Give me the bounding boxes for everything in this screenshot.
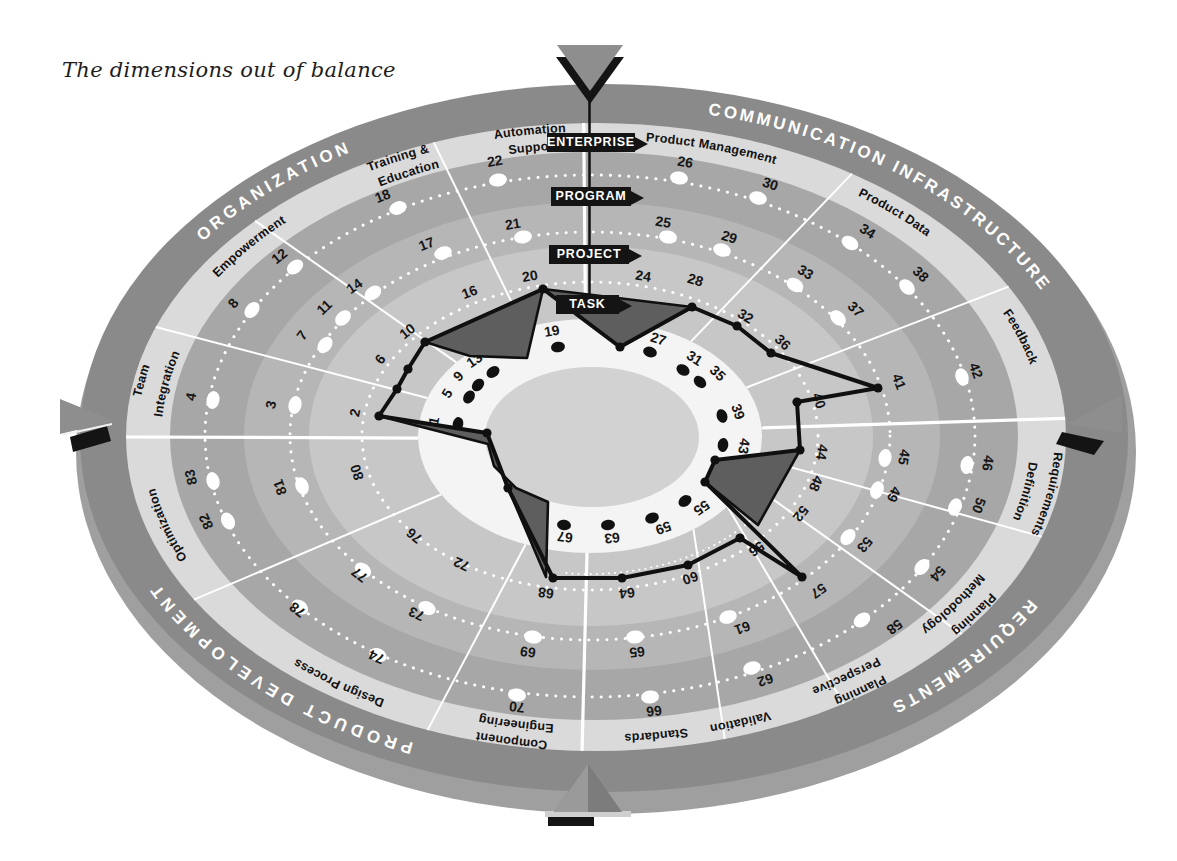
cell-number-66: 66 bbox=[645, 703, 662, 721]
sector-divider bbox=[126, 437, 418, 438]
cell-number-19: 19 bbox=[543, 322, 561, 340]
profile-vertex-dot bbox=[732, 321, 741, 330]
cell-number-26: 26 bbox=[676, 153, 694, 171]
cell-number-24: 24 bbox=[634, 267, 652, 285]
level-banner-label-project: PROJECT bbox=[557, 247, 622, 261]
profile-vertex-dot bbox=[615, 342, 624, 351]
cell-number-64: 64 bbox=[618, 584, 635, 602]
profile-vertex-dot bbox=[710, 455, 719, 464]
profile-vertex-dot bbox=[735, 533, 744, 542]
sector-divider bbox=[584, 123, 586, 319]
cell-number-22: 22 bbox=[486, 152, 504, 170]
profile-vertex-dot bbox=[548, 573, 557, 582]
page: The dimensions out of balance 1234567891… bbox=[0, 0, 1177, 861]
cell-number-44: 44 bbox=[813, 443, 831, 461]
cell-number-67: 67 bbox=[556, 528, 574, 546]
profile-vertex-dot bbox=[687, 302, 696, 311]
cell-number-25: 25 bbox=[654, 213, 672, 231]
cell-number-69: 69 bbox=[519, 643, 537, 661]
profile-vertex-dot bbox=[403, 364, 412, 373]
profile-vertex-dot bbox=[700, 477, 709, 486]
profile-vertex-dot bbox=[392, 384, 401, 393]
profile-vertex-dot bbox=[538, 284, 547, 293]
profile-vertex-dot bbox=[503, 483, 512, 492]
cell-number-70: 70 bbox=[508, 698, 526, 716]
cell-number-46: 46 bbox=[979, 454, 997, 472]
profile-vertex-dot bbox=[420, 337, 429, 346]
direction-arrow-bottom-shadow bbox=[548, 817, 594, 826]
figure-title: The dimensions out of balance bbox=[62, 58, 396, 82]
profile-vertex-dot bbox=[797, 572, 806, 581]
cell-number-65: 65 bbox=[628, 644, 645, 661]
cell-number-45: 45 bbox=[895, 448, 913, 466]
profile-vertex-dot bbox=[617, 573, 626, 582]
balance-wheel-diagram: 1234567891011121314161718192021222425262… bbox=[0, 0, 1177, 861]
cell-number-63: 63 bbox=[603, 530, 620, 547]
center-hole bbox=[485, 367, 699, 507]
level-banner-label-task: TASK bbox=[569, 297, 605, 311]
profile-vertex-dot bbox=[766, 348, 775, 357]
profile-vertex-dot bbox=[683, 560, 692, 569]
profile-vertex-dot bbox=[482, 428, 491, 437]
profile-vertex-dot bbox=[873, 383, 882, 392]
cell-number-68: 68 bbox=[537, 584, 555, 602]
cell-number-21: 21 bbox=[504, 215, 522, 233]
level-banner-label-program: PROGRAM bbox=[556, 189, 627, 203]
level-banner-label-enterprise: ENTERPRISE bbox=[547, 135, 635, 149]
profile-vertex-dot bbox=[374, 411, 383, 420]
profile-vertex-dot bbox=[795, 445, 804, 454]
cell-number-43: 43 bbox=[735, 437, 753, 455]
cell-number-20: 20 bbox=[521, 266, 539, 284]
profile-vertex-dot bbox=[792, 397, 801, 406]
